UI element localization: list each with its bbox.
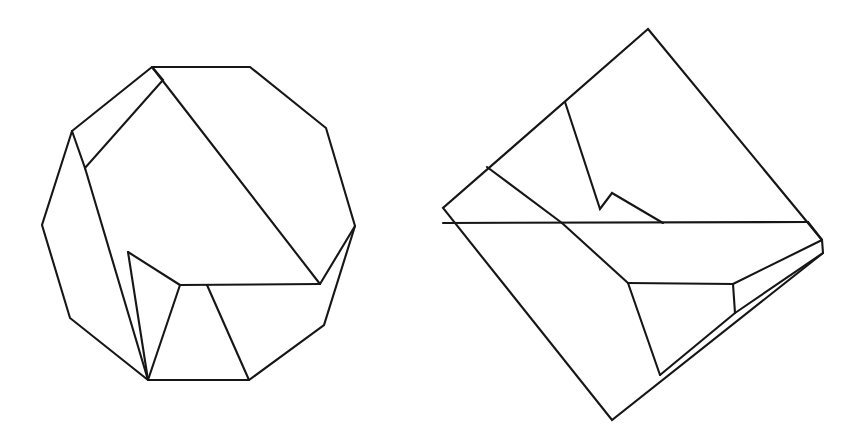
cut-main-horizontal (443, 222, 808, 223)
cut-lower-horizontal (628, 283, 733, 284)
figure-page (0, 0, 865, 441)
figure-canvas (0, 0, 865, 441)
cut-base-horizontal (180, 284, 320, 285)
